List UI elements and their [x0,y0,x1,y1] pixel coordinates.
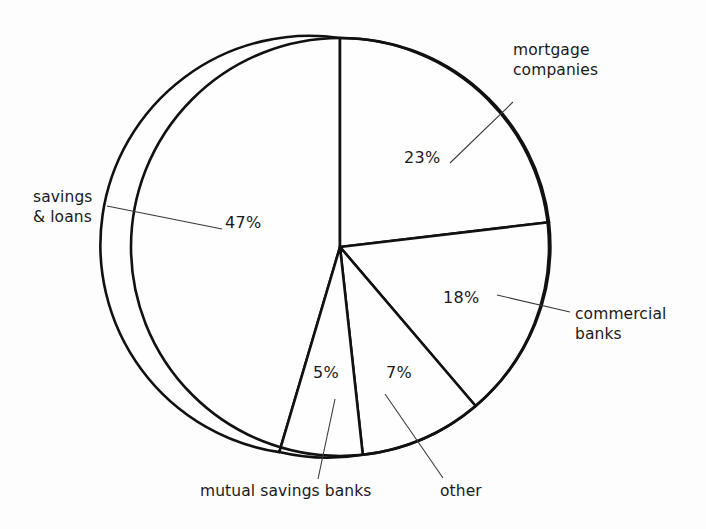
value-label-savings-loans: 47% [225,213,261,233]
value-label-mutual-savings-banks: 5% [313,363,339,383]
category-label-mortgage-companies-line1: mortgage [513,40,598,60]
category-label-mutual-savings-banks: mutual savings banks [200,481,372,501]
value-label-other: 7% [386,363,412,383]
value-label-commercial-banks: 18% [443,288,479,308]
category-label-mortgage-companies: mortgage companies [513,40,598,80]
category-label-other: other [440,481,482,501]
category-label-commercial-banks-line1: commercial [575,304,666,324]
category-label-mortgage-companies-line2: companies [513,60,598,80]
pie-chart: 47% 23% 18% 5% 7% mortgage companies sav… [0,0,706,529]
category-label-savings-loans-line1: savings [33,187,93,207]
value-label-mortgage-companies: 23% [404,148,440,168]
category-label-commercial-banks: commercial banks [575,304,666,344]
pie-chart-graphic [0,0,706,529]
category-label-savings-loans: savings & loans [33,187,93,227]
category-label-commercial-banks-line2: banks [575,324,666,344]
category-label-savings-loans-line2: & loans [33,207,93,227]
